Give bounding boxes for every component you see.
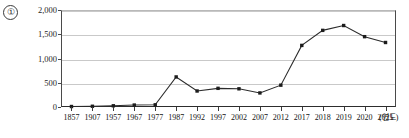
chart-figure: ① 05001,0001,5002,0001857190719571967197… xyxy=(0,0,409,138)
gridline xyxy=(62,35,395,36)
x-axis-tick-mark xyxy=(281,107,282,111)
gridline xyxy=(62,60,395,61)
y-axis-tick-mark xyxy=(58,107,61,108)
y-axis-tick-label: 1,000 xyxy=(11,55,57,64)
y-axis-tick-mark xyxy=(58,34,61,35)
y-axis-tick-label: 1,500 xyxy=(11,30,57,39)
x-axis-tick-mark xyxy=(344,107,345,111)
plot-area xyxy=(61,10,396,107)
y-axis-tick-mark xyxy=(58,59,61,60)
x-axis-tick-mark xyxy=(155,107,156,111)
y-axis-tick-label: 500 xyxy=(11,79,57,88)
x-axis-tick-mark xyxy=(218,107,219,111)
x-axis-tick-mark xyxy=(176,107,177,111)
x-axis-tick-mark xyxy=(71,107,72,111)
x-axis-unit-label: (연도) xyxy=(379,113,398,122)
x-axis-tick-mark xyxy=(239,107,240,111)
x-axis-tick-mark xyxy=(92,107,93,111)
gridline xyxy=(62,11,395,12)
gridline xyxy=(62,84,395,85)
x-axis-tick-mark xyxy=(113,107,114,111)
y-axis-tick-mark xyxy=(58,83,61,84)
x-axis-tick-mark xyxy=(302,107,303,111)
x-axis-tick-mark xyxy=(260,107,261,111)
y-axis-tick-mark xyxy=(58,10,61,11)
x-axis-tick-mark xyxy=(134,107,135,111)
x-axis-tick-mark xyxy=(197,107,198,111)
y-axis-tick-label: 2,000 xyxy=(11,6,57,15)
y-axis-tick-label: 0 xyxy=(11,103,57,112)
x-axis-tick-mark xyxy=(365,107,366,111)
x-axis-tick-mark xyxy=(386,107,387,111)
x-axis-tick-mark xyxy=(323,107,324,111)
